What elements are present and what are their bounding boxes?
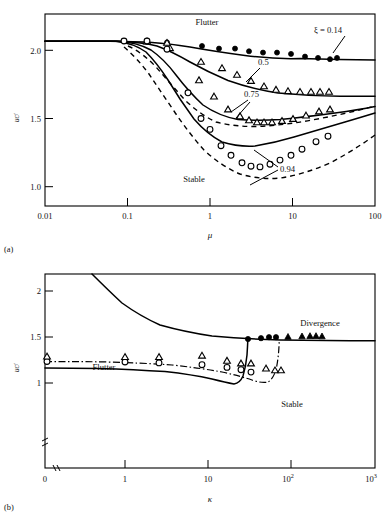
panel-b-plot: 2 1.5 1 0 1 10 102 103 κ uᴄᶠ [0, 258, 388, 517]
curve-flutter-boundary-dashdot [45, 341, 279, 383]
panel-a-ytick-0: 2.0 [30, 46, 41, 56]
panel-a-xlabel: μ [207, 230, 213, 240]
panel-b-ylabel: uᴄᶠ [13, 362, 21, 372]
panel-a-xtick-1: 0.1 [122, 211, 133, 221]
panel-a-xtick-0: 0.01 [37, 211, 52, 221]
panel-b-xtick-3: 102 [282, 472, 294, 484]
panel-a-x-ticks [128, 198, 293, 206]
leader-075b [236, 102, 250, 118]
label-05: 0.5 [258, 57, 269, 67]
panel-b-xtick-4: 103 [365, 472, 377, 484]
panel-b-ytick-0: 2 [37, 286, 41, 296]
panel-a: 2.0 1.5 1.0 0.01 0.1 1 10 100 μ uᴄᶠ (a) … [0, 0, 388, 258]
panel-b-label: (b) [4, 503, 14, 512]
panel-b-xtick-2: 10 [204, 474, 213, 484]
panel-a-ytick-1: 1.5 [30, 114, 41, 124]
panel-b-zone-flutter: Flutter [93, 362, 116, 372]
panel-a-xtick-3: 10 [288, 211, 297, 221]
panel-a-zone-flutter: Flutter [196, 17, 219, 27]
curve-divergence-boundary [92, 274, 375, 341]
label-xi-014: ξ = 0.14 [314, 25, 343, 35]
panel-b-x-ticks [125, 460, 291, 468]
curve-xi-075 [45, 41, 375, 120]
panel-b-y-ticks [45, 291, 53, 383]
figure-container: 2.0 1.5 1.0 0.01 0.1 1 10 100 μ uᴄᶠ (a) … [0, 0, 388, 517]
leader-094b [250, 170, 278, 185]
leader-05 [246, 68, 260, 82]
panel-b-xtick-0: 0 [43, 474, 47, 484]
markers-filled-triangle-b [285, 333, 325, 340]
leader-075 [231, 100, 248, 112]
markers-xi-094 [121, 38, 331, 170]
panel-a-xtick-2: 1 [208, 211, 212, 221]
panel-a-xtick-4: 100 [369, 211, 382, 221]
panel-b: 2 1.5 1 0 1 10 102 103 κ uᴄᶠ [0, 258, 388, 517]
panel-b-xtick-1: 1 [123, 474, 127, 484]
panel-a-ylabel: uᴄᶠ [13, 112, 21, 122]
curve-xi-050 [45, 41, 375, 96]
label-094: 0.94 [280, 164, 296, 174]
panel-a-y-ticks [45, 50, 53, 186]
leader-xi-014 [333, 36, 345, 53]
panel-b-zone-stable: Stable [281, 399, 303, 409]
panel-a-plot: 2.0 1.5 1.0 0.01 0.1 1 10 100 μ uᴄᶠ (a) … [0, 0, 388, 258]
markers-open-triangle-b [44, 352, 285, 373]
panel-a-label: (a) [4, 245, 14, 254]
panel-b-xlabel: κ [208, 494, 213, 504]
panel-a-zone-stable: Stable [183, 174, 205, 184]
label-075: 0.75 [244, 89, 259, 99]
panel-b-ytick-2: 1 [37, 378, 41, 388]
panel-a-ytick-2: 1.0 [30, 182, 41, 192]
panel-b-ytick-1: 1.5 [30, 332, 41, 342]
panel-b-zone-divergence: Divergence [300, 318, 340, 328]
curve-xi-014 [45, 41, 375, 60]
